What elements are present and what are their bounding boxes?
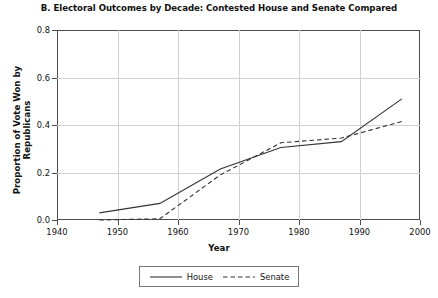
x-tick-label: 1970: [228, 227, 249, 237]
chart-title: B. Electoral Outcomes by Decade: Contest…: [0, 3, 438, 13]
legend-label-house: House: [187, 272, 213, 282]
y-tick-label: 0.2: [37, 168, 50, 178]
chart-figure: B. Electoral Outcomes by Decade: Contest…: [0, 0, 438, 298]
x-tick-mark: [57, 220, 58, 225]
x-tick-label: 2000: [409, 227, 430, 237]
chart-legend: House Senate: [139, 266, 299, 287]
y-tick-label: 0.4: [37, 120, 50, 130]
x-tick-label: 1990: [349, 227, 370, 237]
series-line-house: [99, 99, 402, 213]
legend-line-solid-icon: [149, 273, 183, 281]
y-tick-label: 0.6: [37, 73, 50, 83]
y-tick-label: 0.0: [37, 215, 50, 225]
x-tick-label: 1940: [46, 227, 67, 237]
x-tick-mark: [420, 220, 421, 225]
x-tick-mark: [239, 220, 240, 225]
x-tick-label: 1980: [288, 227, 309, 237]
plot-area: 0.00.20.40.60.81940195019601970198019902…: [57, 30, 420, 220]
legend-item-house: House: [149, 272, 213, 282]
legend-item-senate: Senate: [222, 272, 289, 282]
y-axis-title: Proportion of Vote Won by Republicans: [12, 35, 32, 225]
legend-label-senate: Senate: [260, 272, 289, 282]
x-axis-title: Year: [0, 243, 438, 253]
x-tick-label: 1960: [167, 227, 188, 237]
x-tick-mark: [118, 220, 119, 225]
x-tick-mark: [299, 220, 300, 225]
x-tick-label: 1950: [107, 227, 128, 237]
y-tick-label: 0.8: [37, 25, 50, 35]
series-lines: [57, 30, 420, 220]
x-tick-mark: [178, 220, 179, 225]
legend-line-dashed-icon: [222, 273, 256, 281]
x-tick-mark: [360, 220, 361, 225]
